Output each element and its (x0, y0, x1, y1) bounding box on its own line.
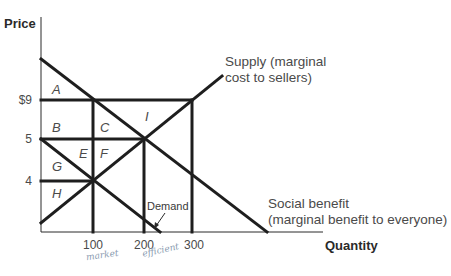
y-tick-4: 4 (2, 175, 32, 187)
supply-label-line1: Supply (marginal (225, 54, 326, 70)
region-label-a: A (52, 83, 61, 96)
social-label-line2: (marginal benefit to everyone) (268, 212, 447, 228)
chart-canvas (0, 0, 451, 276)
supply-curve (41, 76, 222, 223)
y-tick-9: $9 (2, 94, 32, 106)
region-label-f: F (100, 147, 108, 160)
x-axis-title: Quantity (325, 239, 378, 252)
region-label-b: B (52, 121, 61, 134)
x-tick-300: 300 (184, 239, 204, 251)
demand-curve-label: Demand (147, 201, 189, 212)
y-tick-5: 5 (2, 133, 32, 145)
supply-curve-label: Supply (marginal cost to sellers) (225, 54, 326, 86)
region-label-e: E (79, 147, 88, 160)
social-label-line1: Social benefit (268, 196, 447, 212)
region-label-g: G (52, 160, 62, 173)
region-label-h: H (52, 187, 61, 200)
y-axis-title: Price (4, 17, 36, 30)
region-label-c: C (100, 121, 109, 134)
social-benefit-label: Social benefit (marginal benefit to ever… (268, 196, 447, 228)
region-label-i: I (145, 110, 149, 123)
supply-label-line2: cost to sellers) (225, 70, 326, 86)
demand-arrow-icon (154, 213, 165, 229)
